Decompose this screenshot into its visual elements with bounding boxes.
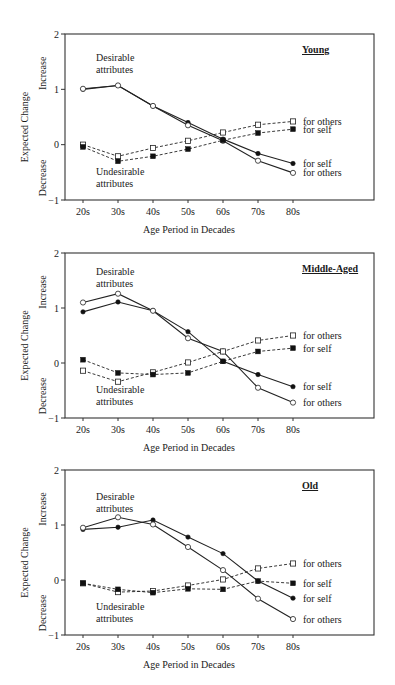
data-point-filled-square-marker — [256, 579, 261, 584]
y-decrease-label: Decrease — [37, 159, 48, 196]
data-point-open-square-marker — [220, 130, 225, 135]
data-point-open-circle-marker — [220, 568, 225, 573]
y-tick-label: 2 — [54, 29, 59, 40]
series-end-label: for others — [303, 397, 342, 408]
data-point-open-square-marker — [290, 119, 295, 124]
data-point-filled-square-marker — [186, 371, 191, 376]
data-point-filled-square-marker — [256, 349, 261, 354]
data-point-filled-square-marker — [151, 154, 156, 159]
data-point-open-square-marker — [290, 333, 295, 338]
x-tick-label: 20s — [76, 641, 90, 652]
data-point-open-circle-marker — [80, 525, 85, 530]
undesirable-attributes-label: Undesirable — [96, 384, 145, 395]
series-end-label: for others — [303, 558, 342, 569]
x-axis-title: Age Period in Decades — [143, 224, 235, 235]
data-point-open-circle-marker — [255, 596, 260, 601]
data-point-open-circle-marker — [150, 308, 155, 313]
x-tick-label: 80s — [286, 641, 300, 652]
data-point-open-square-marker — [115, 154, 120, 159]
desirable-attributes-label: Desirable — [96, 491, 135, 502]
x-tick-label: 80s — [286, 424, 300, 435]
chart-panel-old: 210−120s30s40s50s60s70s80sAge Period in … — [19, 465, 374, 671]
series-end-label: for self — [303, 578, 332, 589]
data-point-open-circle-marker — [185, 123, 190, 128]
panel-title-middle-aged: Middle-Aged — [302, 263, 359, 274]
data-point-filled-circle-marker — [291, 161, 295, 165]
figure-caption-fragment — [0, 676, 395, 685]
data-point-open-square-marker — [290, 561, 295, 566]
x-tick-label: 40s — [146, 424, 160, 435]
y-decrease-label: Decrease — [37, 594, 48, 631]
x-tick-label: 40s — [146, 206, 160, 217]
data-point-filled-square-marker — [186, 586, 191, 591]
desirable-attributes-label: Desirable — [96, 52, 135, 63]
x-tick-label: 50s — [181, 206, 195, 217]
y-tick-label: −1 — [48, 413, 59, 424]
data-point-filled-square-marker — [81, 357, 86, 362]
data-point-filled-square-marker — [186, 147, 191, 152]
data-point-filled-square-marker — [116, 159, 121, 164]
data-point-open-circle-marker — [115, 291, 120, 296]
data-point-open-circle-marker — [290, 400, 295, 405]
data-point-open-circle-marker — [290, 616, 295, 621]
x-tick-label: 70s — [251, 641, 265, 652]
data-point-filled-square-marker — [151, 372, 156, 377]
y-tick-label: 2 — [54, 248, 59, 259]
y-tick-label: 0 — [54, 575, 59, 586]
undesirable-attributes-label: attributes — [96, 613, 133, 624]
data-point-filled-square-marker — [116, 587, 121, 592]
desirable-attributes-label: attributes — [96, 503, 133, 514]
y-increase-label: Increase — [37, 56, 48, 90]
chart-panel-middle-aged: 210−120s30s40s50s60s70s80sAge Period in … — [19, 248, 374, 454]
y-tick-label: −1 — [48, 195, 59, 206]
data-point-filled-circle-marker — [256, 151, 260, 155]
data-point-filled-circle-marker — [116, 300, 120, 304]
desirable-attributes-label: attributes — [96, 64, 133, 75]
data-point-open-square-marker — [80, 368, 85, 373]
data-point-open-circle-marker — [150, 522, 155, 527]
undesirable-attributes-label: Undesirable — [96, 601, 145, 612]
data-point-open-circle-marker — [115, 515, 120, 520]
series-line-undesirable-attributes-for-self — [83, 129, 293, 161]
data-point-open-circle-marker — [150, 103, 155, 108]
data-point-filled-circle-marker — [221, 551, 225, 555]
chart-panel-young: 210−120s30s40s50s60s70s80sAge Period in … — [19, 29, 374, 236]
data-point-open-square-marker — [220, 577, 225, 582]
undesirable-attributes-label: attributes — [96, 396, 133, 407]
data-point-open-circle-marker — [290, 170, 295, 175]
x-axis-title: Age Period in Decades — [143, 659, 235, 670]
x-tick-label: 50s — [181, 641, 195, 652]
data-point-filled-circle-marker — [116, 525, 120, 529]
data-point-open-circle-marker — [80, 300, 85, 305]
data-point-filled-square-marker — [81, 581, 86, 586]
desirable-attributes-label: Desirable — [96, 266, 135, 277]
x-tick-label: 60s — [216, 424, 230, 435]
data-point-filled-circle-marker — [186, 535, 190, 539]
data-point-filled-circle-marker — [256, 372, 260, 376]
data-point-filled-circle-marker — [291, 384, 295, 388]
series-end-label: for self — [303, 124, 332, 135]
figure: 210−120s30s40s50s60s70s80sAge Period in … — [0, 0, 395, 685]
data-point-filled-square-marker — [151, 590, 156, 595]
series-end-label: for self — [303, 593, 332, 604]
data-point-filled-circle-marker — [291, 596, 295, 600]
desirable-attributes-label: attributes — [96, 278, 133, 289]
x-tick-label: 60s — [216, 206, 230, 217]
data-point-open-square-marker — [255, 566, 260, 571]
x-tick-label: 40s — [146, 641, 160, 652]
data-point-filled-square-marker — [81, 144, 86, 149]
series-line-desirable-attributes-for-others — [83, 85, 293, 172]
y-decrease-label: Decrease — [37, 377, 48, 414]
x-tick-label: 80s — [286, 206, 300, 217]
series-end-label: for self — [303, 343, 332, 354]
data-point-filled-square-marker — [256, 131, 261, 136]
series-end-label: for others — [303, 614, 342, 625]
x-tick-label: 30s — [111, 424, 125, 435]
data-point-filled-square-marker — [291, 581, 296, 586]
data-point-open-circle-marker — [255, 158, 260, 163]
undesirable-attributes-label: Undesirable — [96, 166, 145, 177]
data-point-open-circle-marker — [255, 385, 260, 390]
data-point-filled-square-marker — [116, 371, 121, 376]
y-tick-label: 0 — [54, 139, 59, 150]
data-point-open-circle-marker — [115, 83, 120, 88]
